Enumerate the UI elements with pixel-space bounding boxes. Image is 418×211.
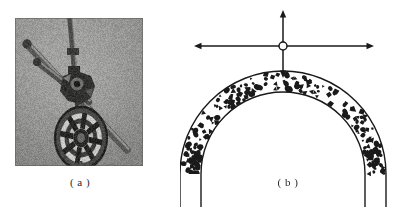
caption-panel-a: ( a ) bbox=[30, 176, 130, 188]
photograph-canvas bbox=[15, 18, 143, 166]
panel-b: ( b ) bbox=[180, 0, 418, 211]
figure-root: ( a ) ( b ) bbox=[0, 0, 418, 211]
panel-a: ( a ) bbox=[0, 0, 209, 211]
caption-panel-b: ( b ) bbox=[238, 176, 338, 188]
photograph-drilling-rig bbox=[15, 18, 143, 166]
